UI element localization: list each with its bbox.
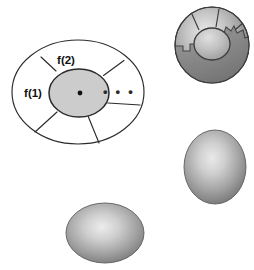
center-dot (78, 91, 83, 96)
cracked-sectored-sphere (172, 7, 251, 90)
vertical-ellipsoid-body (184, 130, 246, 204)
sectored-disc-schematic: f(1) f(2) • • • (12, 40, 144, 144)
sphere-inner-cap (194, 28, 230, 60)
vertical-ellipsoid (184, 130, 246, 204)
horizontal-ellipsoid (66, 203, 144, 263)
sector-label-ellipsis: • • • (103, 84, 135, 99)
figure-svg: f(1) f(2) • • • (0, 0, 254, 270)
sector-label-f1: f(1) (24, 87, 42, 99)
sector-label-f2: f(2) (57, 54, 75, 66)
horizontal-ellipsoid-body (66, 203, 144, 263)
figure-canvas: f(1) f(2) • • • (0, 0, 254, 270)
